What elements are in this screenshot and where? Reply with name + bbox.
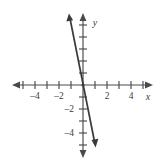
x-axis-label: x [145,91,151,102]
plotted-line-top-arrow-icon [66,14,73,22]
graph-canvas: –4 –2 2 4 x –2 [0,0,165,167]
plotted-line [70,20,94,142]
x-tick-label-pos2: 2 [105,91,110,101]
y-axis-top-arrow-icon [80,13,87,21]
coordinate-plane-figure: –4 –2 2 4 x –2 [0,0,165,167]
x-tick-label-neg4: –4 [29,91,40,101]
origin-point-marker [81,83,84,86]
x-tick-label-pos4: 4 [129,91,134,101]
x-axis-left-arrow-icon [12,82,20,89]
plotted-line-bottom-arrow-icon [92,139,99,148]
y-axis-bottom-arrow-icon [80,150,87,158]
y-tick-label-neg2: –2 [64,104,75,114]
y-axis-label: y [92,17,98,28]
y-tick-label-neg4: –4 [64,128,75,138]
x-axis-right-arrow-icon [145,82,153,89]
x-tick-label-neg2: –2 [53,91,64,101]
